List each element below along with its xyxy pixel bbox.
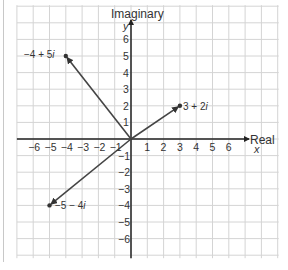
x-tick-label: −3	[77, 141, 89, 153]
x-tick-label: 6	[226, 141, 232, 153]
point-dot	[47, 203, 51, 207]
y-axis-letter: y	[122, 20, 130, 32]
x-tick-label: −6	[28, 141, 40, 153]
x-tick-label: 2	[161, 141, 167, 153]
grid-lines	[17, 5, 279, 258]
x-tick-label: 4	[193, 141, 199, 153]
point-dot	[178, 104, 182, 108]
y-tick-label: 3	[123, 83, 129, 95]
x-tick-label: −4	[61, 141, 73, 153]
point-label-3-plus-2i: 3 + 2i	[183, 101, 209, 112]
x-tick-label: −2	[93, 141, 105, 153]
x-tick-label: 3	[177, 141, 183, 153]
y-tick-label: −4	[118, 199, 130, 211]
y-tick-label: 6	[123, 33, 129, 45]
x-tick-label: 1	[144, 141, 150, 153]
imaginary-axis-label: Imaginary	[111, 7, 164, 21]
point-dot	[64, 54, 68, 58]
y-tick-label: −6	[118, 233, 130, 245]
x-tick-label: −5	[45, 141, 57, 153]
point-label-neg4-plus-5i: −4 + 5i	[24, 49, 55, 60]
complex-plane-diagram: −6−5−4−3−2−1123456654321−1−2−3−4−5−6 Ima…	[0, 0, 288, 270]
vector-arrow	[131, 107, 178, 139]
y-tick-label: −1	[118, 150, 130, 162]
y-tick-label: −3	[118, 183, 130, 195]
y-tick-label: 4	[123, 67, 129, 79]
y-tick-label: −5	[118, 216, 130, 228]
y-tick-label: 1	[123, 116, 129, 128]
x-tick-label: 5	[210, 141, 216, 153]
y-tick-label: −2	[118, 166, 130, 178]
point-label-neg5-minus-4i: −5 − 4i	[55, 200, 86, 211]
vector-arrow	[67, 58, 131, 139]
x-axis-letter: x	[253, 143, 260, 155]
y-tick-label: 5	[123, 50, 129, 62]
y-tick-label: 2	[123, 100, 129, 112]
